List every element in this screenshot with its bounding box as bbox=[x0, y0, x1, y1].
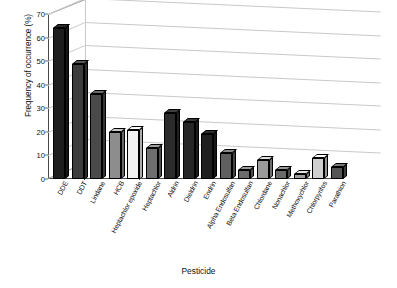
x-tick-label-text: HCB bbox=[112, 180, 125, 196]
x-tick-label-text: Parathion bbox=[327, 180, 347, 209]
y-tick-label: 30 bbox=[37, 104, 45, 113]
bar bbox=[201, 134, 213, 179]
y-tick-label: 70 bbox=[37, 10, 45, 19]
bar-front-face bbox=[238, 170, 250, 179]
bar bbox=[331, 167, 343, 179]
bar bbox=[164, 113, 176, 179]
bar bbox=[183, 122, 195, 179]
bar-side-face bbox=[84, 60, 88, 179]
bar-front-face bbox=[294, 174, 306, 179]
bar-side-face bbox=[213, 131, 217, 179]
x-tick-label-text: Heptachlor bbox=[141, 180, 162, 212]
bar-front-face bbox=[90, 94, 102, 179]
x-tick-label-text: DDT bbox=[75, 180, 88, 196]
bar bbox=[90, 94, 102, 179]
x-tick-label-text: DDE bbox=[57, 180, 70, 196]
bar-front-face bbox=[72, 64, 84, 180]
bar bbox=[312, 158, 324, 179]
bar bbox=[220, 153, 232, 179]
bar-side-face bbox=[176, 110, 180, 179]
y-tick-label: 20 bbox=[37, 127, 45, 136]
gridline bbox=[85, 0, 381, 12]
y-tick-label: 10 bbox=[37, 151, 45, 160]
bar-side-face bbox=[65, 25, 69, 179]
x-axis-title: Pesticide bbox=[0, 266, 397, 276]
bar-side-face bbox=[139, 126, 143, 179]
y-tick-label: 60 bbox=[37, 33, 45, 42]
y-tick-label: 0 bbox=[41, 175, 45, 184]
bar-front-face bbox=[331, 167, 343, 179]
bar-front-face bbox=[275, 170, 287, 179]
bar-front-face bbox=[146, 148, 158, 179]
x-axis-tick-labels: DDEDDTLindaneHCBHeptachlor epoxideHeptac… bbox=[48, 180, 388, 266]
depth-edge-top-left bbox=[48, 0, 85, 15]
bar-front-face bbox=[220, 153, 232, 179]
x-tick-label-text: Aldrin bbox=[166, 180, 180, 198]
bar bbox=[72, 64, 84, 180]
x-tick-label-text: Dieldrin bbox=[182, 180, 199, 203]
bar-front-face bbox=[127, 130, 139, 180]
x-tick-label-text: Endrin bbox=[202, 180, 217, 200]
chart-figure: Frequency of occurrence (%) 010203040506… bbox=[0, 0, 397, 288]
x-tick-label-text: Nonachlor bbox=[271, 180, 292, 210]
y-axis-title: Frequency of occurrence (%) bbox=[24, 0, 33, 141]
bar-side-face bbox=[158, 145, 162, 179]
x-tick-label-text: Lindane bbox=[89, 180, 106, 204]
bar bbox=[53, 28, 65, 179]
plot-area: 010203040506070 bbox=[48, 14, 378, 179]
bar-front-face bbox=[201, 134, 213, 179]
bar bbox=[275, 170, 287, 179]
bar-front-face bbox=[183, 122, 195, 179]
bar bbox=[257, 160, 269, 179]
bar-front-face bbox=[164, 113, 176, 179]
bar bbox=[109, 132, 121, 179]
bar-front-face bbox=[53, 28, 65, 179]
bar bbox=[127, 130, 139, 180]
bar bbox=[238, 170, 250, 179]
bar-front-face bbox=[257, 160, 269, 179]
bar-side-face bbox=[121, 129, 125, 179]
y-tick-label: 40 bbox=[37, 80, 45, 89]
bar bbox=[146, 148, 158, 179]
bar-series bbox=[48, 14, 378, 179]
bar-front-face bbox=[312, 158, 324, 179]
bar bbox=[294, 174, 306, 179]
bar-side-face bbox=[324, 155, 328, 179]
bar-side-face bbox=[232, 150, 236, 179]
bar-side-face bbox=[102, 91, 106, 179]
bar-side-face bbox=[269, 157, 273, 179]
y-tick-label: 50 bbox=[37, 57, 45, 66]
bar-front-face bbox=[109, 132, 121, 179]
bar-side-face bbox=[195, 119, 199, 179]
